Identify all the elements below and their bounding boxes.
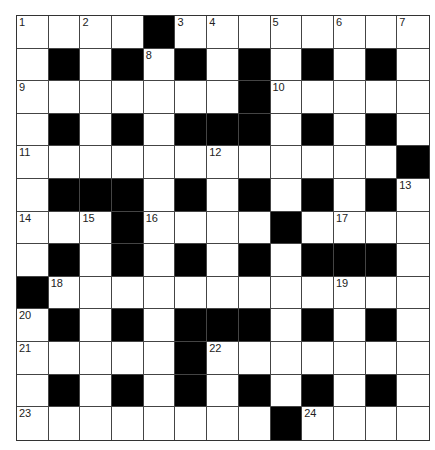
grid-cell[interactable]	[207, 277, 239, 310]
grid-cell[interactable]: 8	[144, 49, 176, 82]
grid-cell[interactable]	[366, 342, 398, 375]
grid-cell[interactable]	[239, 16, 271, 49]
grid-cell[interactable]	[271, 277, 303, 310]
grid-cell[interactable]	[334, 309, 366, 342]
grid-cell[interactable]	[80, 114, 112, 147]
grid-cell[interactable]	[271, 375, 303, 408]
grid-cell[interactable]	[80, 277, 112, 310]
grid-cell[interactable]	[239, 342, 271, 375]
grid-cell[interactable]	[397, 114, 429, 147]
grid-cell[interactable]: 20	[17, 309, 49, 342]
grid-cell[interactable]	[397, 407, 429, 440]
grid-cell[interactable]	[49, 81, 81, 114]
grid-cell[interactable]	[397, 375, 429, 408]
grid-cell[interactable]	[302, 277, 334, 310]
grid-cell[interactable]	[366, 81, 398, 114]
grid-cell[interactable]	[144, 375, 176, 408]
grid-cell[interactable]: 16	[144, 212, 176, 245]
grid-cell[interactable]	[112, 146, 144, 179]
grid-cell[interactable]	[175, 146, 207, 179]
grid-cell[interactable]	[207, 81, 239, 114]
grid-cell[interactable]	[302, 16, 334, 49]
grid-cell[interactable]	[271, 342, 303, 375]
grid-cell[interactable]	[144, 309, 176, 342]
grid-cell[interactable]: 14	[17, 212, 49, 245]
grid-cell[interactable]	[239, 212, 271, 245]
grid-cell[interactable]	[366, 146, 398, 179]
grid-cell[interactable]	[175, 81, 207, 114]
grid-cell[interactable]	[397, 212, 429, 245]
grid-cell[interactable]	[239, 407, 271, 440]
grid-cell[interactable]: 15	[80, 212, 112, 245]
grid-cell[interactable]	[80, 375, 112, 408]
grid-cell[interactable]	[366, 16, 398, 49]
grid-cell[interactable]	[334, 146, 366, 179]
grid-cell[interactable]	[112, 277, 144, 310]
grid-cell[interactable]: 6	[334, 16, 366, 49]
grid-cell[interactable]	[207, 212, 239, 245]
grid-cell[interactable]: 5	[271, 16, 303, 49]
grid-cell[interactable]: 9	[17, 81, 49, 114]
grid-cell[interactable]	[397, 49, 429, 82]
grid-cell[interactable]	[144, 342, 176, 375]
grid-cell[interactable]	[49, 342, 81, 375]
grid-cell[interactable]: 4	[207, 16, 239, 49]
grid-cell[interactable]	[144, 244, 176, 277]
grid-cell[interactable]	[334, 81, 366, 114]
grid-cell[interactable]	[49, 212, 81, 245]
grid-cell[interactable]	[366, 277, 398, 310]
grid-cell[interactable]	[334, 49, 366, 82]
grid-cell[interactable]	[207, 179, 239, 212]
grid-cell[interactable]: 12	[207, 146, 239, 179]
grid-cell[interactable]	[207, 49, 239, 82]
grid-cell[interactable]	[17, 179, 49, 212]
grid-cell[interactable]: 10	[271, 81, 303, 114]
grid-cell[interactable]	[80, 49, 112, 82]
grid-cell[interactable]	[239, 277, 271, 310]
grid-cell[interactable]	[271, 309, 303, 342]
grid-cell[interactable]	[144, 407, 176, 440]
grid-cell[interactable]	[17, 114, 49, 147]
grid-cell[interactable]	[80, 407, 112, 440]
grid-cell[interactable]	[397, 277, 429, 310]
grid-cell[interactable]	[302, 342, 334, 375]
grid-cell[interactable]	[271, 244, 303, 277]
grid-cell[interactable]: 21	[17, 342, 49, 375]
grid-cell[interactable]	[49, 146, 81, 179]
grid-cell[interactable]	[271, 179, 303, 212]
grid-cell[interactable]	[144, 179, 176, 212]
grid-cell[interactable]	[49, 16, 81, 49]
grid-cell[interactable]	[49, 407, 81, 440]
grid-cell[interactable]	[397, 309, 429, 342]
grid-cell[interactable]: 24	[302, 407, 334, 440]
grid-cell[interactable]	[334, 342, 366, 375]
grid-cell[interactable]	[80, 244, 112, 277]
grid-cell[interactable]	[144, 146, 176, 179]
grid-cell[interactable]	[397, 244, 429, 277]
grid-cell[interactable]	[80, 309, 112, 342]
grid-cell[interactable]	[17, 244, 49, 277]
grid-cell[interactable]	[175, 407, 207, 440]
grid-cell[interactable]	[112, 81, 144, 114]
grid-cell[interactable]	[175, 277, 207, 310]
grid-cell[interactable]	[112, 342, 144, 375]
grid-cell[interactable]	[366, 212, 398, 245]
grid-cell[interactable]	[239, 146, 271, 179]
grid-cell[interactable]	[302, 212, 334, 245]
grid-cell[interactable]	[207, 375, 239, 408]
grid-cell[interactable]	[397, 81, 429, 114]
grid-cell[interactable]: 1	[17, 16, 49, 49]
grid-cell[interactable]: 22	[207, 342, 239, 375]
grid-cell[interactable]	[271, 49, 303, 82]
grid-cell[interactable]: 3	[175, 16, 207, 49]
grid-cell[interactable]	[271, 114, 303, 147]
grid-cell[interactable]	[112, 407, 144, 440]
grid-cell[interactable]: 18	[49, 277, 81, 310]
grid-cell[interactable]	[175, 212, 207, 245]
grid-cell[interactable]	[334, 114, 366, 147]
grid-cell[interactable]: 11	[17, 146, 49, 179]
grid-cell[interactable]	[207, 244, 239, 277]
grid-cell[interactable]	[302, 146, 334, 179]
grid-cell[interactable]	[334, 407, 366, 440]
grid-cell[interactable]	[80, 342, 112, 375]
